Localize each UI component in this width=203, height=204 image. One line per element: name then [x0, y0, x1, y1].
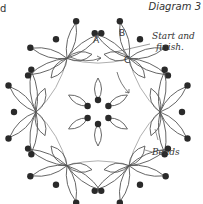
direction-arrow [117, 72, 129, 93]
diagram-title: Diagram 3 [149, 1, 201, 12]
bead [28, 151, 34, 157]
beads-leader-line [145, 150, 152, 152]
bead [161, 67, 167, 73]
ring [30, 112, 38, 153]
bead [184, 82, 190, 88]
ring-label-c: C [124, 55, 130, 65]
bead [27, 173, 33, 179]
bead [137, 182, 143, 188]
bead [162, 173, 168, 179]
ring [30, 71, 38, 112]
center-bead [95, 121, 101, 127]
center-ring [95, 124, 102, 146]
bead [27, 45, 33, 51]
center-ring [69, 118, 88, 129]
bead [53, 36, 59, 42]
ring-label-b: B [119, 28, 125, 38]
ring [158, 71, 166, 112]
bead [5, 135, 11, 141]
ring-label-a: A [93, 35, 99, 45]
tatting-diagram: d Diagram 3 A B C Start and finish. Bead… [0, 0, 203, 204]
bead [98, 188, 104, 194]
start-finish-label-line2: finish. [156, 42, 184, 52]
start-finish-label-line1: Start and [152, 31, 195, 41]
ring [160, 112, 186, 137]
ring [32, 165, 67, 176]
center-ring [108, 95, 127, 106]
ring [32, 48, 67, 59]
bead [117, 200, 123, 204]
bead [73, 200, 79, 204]
center-ring [108, 118, 127, 129]
bead [11, 109, 17, 115]
center-bead [105, 115, 111, 121]
center-ring [69, 95, 88, 106]
bead [28, 67, 34, 73]
center-bead [105, 103, 111, 109]
bead [53, 182, 59, 188]
bead [117, 18, 123, 24]
ring [160, 87, 186, 112]
center-bead [84, 115, 90, 121]
center-bead [95, 97, 101, 103]
corner-text-fragment: d [0, 3, 6, 14]
center-bead [84, 103, 90, 109]
bead [25, 72, 31, 78]
center-ring [95, 78, 102, 100]
bead [5, 82, 11, 88]
bead [73, 18, 79, 24]
bead [137, 36, 143, 42]
bead [179, 109, 185, 115]
ring [10, 112, 36, 137]
ring [10, 87, 36, 112]
beads-label: Beads [152, 147, 180, 157]
bead [184, 135, 190, 141]
ring [129, 165, 164, 176]
